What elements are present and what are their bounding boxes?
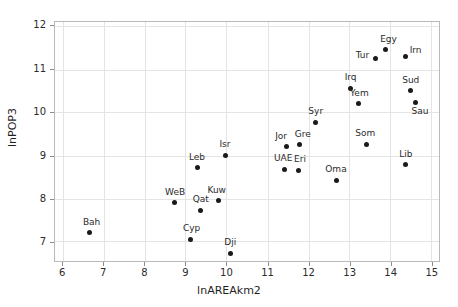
data-point[interactable] [334,178,339,183]
x-axis-tick [226,262,227,266]
y-axis-tick-label: 9 [40,151,46,161]
y-axis-tick [50,112,54,113]
x-axis-tick [62,262,63,266]
data-point-label: Som [355,129,375,138]
data-point[interactable] [364,142,369,147]
data-point-label: WeB [165,188,185,197]
y-axis-tick [50,25,54,26]
x-axis-tick-label: 11 [261,268,274,278]
y-axis-tick-label: 7 [40,237,46,247]
x-axis-tick [103,262,104,266]
data-point-label: Sau [412,107,429,116]
data-point[interactable] [403,162,408,167]
data-point[interactable] [223,153,228,158]
data-point[interactable] [408,88,413,93]
x-axis-tick [268,262,269,266]
data-point-label: UAE [274,154,292,163]
y-axis-tick [50,156,54,157]
data-point-label: Egy [380,35,397,44]
x-axis-tick-label: 9 [182,268,188,278]
y-axis-tick-label: 10 [33,107,46,117]
data-points-layer: BahWeBCypQatLebKuwIsrDjiUAEJorEriGreSyrO… [55,22,439,261]
data-point-label: Eri [294,155,306,164]
data-point-label: Irq [345,73,357,82]
data-point-label: Gre [295,130,311,139]
plot-area: BahWeBCypQatLebKuwIsrDjiUAEJorEriGreSyrO… [54,21,440,262]
data-point[interactable] [87,230,92,235]
data-point[interactable] [195,165,200,170]
y-axis-tick [50,242,54,243]
data-point[interactable] [313,120,318,125]
data-point-label: Leb [189,153,205,162]
x-axis-tick-label: 10 [220,268,233,278]
data-point-label: Oma [325,165,346,174]
data-point-label: Yem [350,89,369,98]
y-axis-tick-label: 12 [33,20,46,30]
data-point-label: Isr [219,140,230,149]
data-point[interactable] [172,200,177,205]
y-axis-tick [50,199,54,200]
x-axis-tick-label: 6 [59,268,65,278]
x-axis-tick [391,262,392,266]
data-point[interactable] [284,144,289,149]
x-axis-title: lnAREAkm2 [0,284,458,297]
x-axis-tick-label: 13 [343,268,356,278]
data-point-label: Syr [308,107,323,116]
x-axis-tick-label: 7 [100,268,106,278]
x-axis-tick-label: 12 [302,268,315,278]
x-axis-tick [432,262,433,266]
data-point-label: Kuw [207,186,226,195]
data-point-label: Sud [402,76,419,85]
y-axis-title: lnPOP3 [6,73,19,183]
data-point[interactable] [198,208,203,213]
x-axis-tick-label: 15 [425,268,438,278]
data-point[interactable] [296,168,301,173]
x-axis-tick-label: 8 [141,268,147,278]
data-point[interactable] [356,101,361,106]
data-point[interactable] [282,167,287,172]
data-point-label: Cyp [183,224,200,233]
data-point-label: Dji [224,238,236,247]
data-point-label: Qat [193,195,209,204]
y-axis-tick [50,69,54,70]
data-point[interactable] [297,142,302,147]
data-point[interactable] [383,47,388,52]
data-point[interactable] [413,100,418,105]
data-point-label: Irn [410,46,422,55]
data-point[interactable] [373,56,378,61]
scatter-plot-figure: BahWeBCypQatLebKuwIsrDjiUAEJorEriGreSyrO… [0,0,458,307]
data-point[interactable] [403,54,408,59]
data-point[interactable] [188,237,193,242]
data-point[interactable] [216,198,221,203]
data-point[interactable] [228,251,233,256]
data-point-label: Jor [275,132,287,141]
y-axis-tick-label: 8 [40,194,46,204]
x-axis-tick [350,262,351,266]
x-axis-tick-label: 14 [384,268,397,278]
data-point-label: Lib [399,150,412,159]
x-axis-tick [144,262,145,266]
y-axis-tick-label: 11 [33,64,46,74]
data-point-label: Bah [83,218,100,227]
x-axis-tick [309,262,310,266]
data-point-label: Tur [356,51,370,60]
x-axis-tick [185,262,186,266]
